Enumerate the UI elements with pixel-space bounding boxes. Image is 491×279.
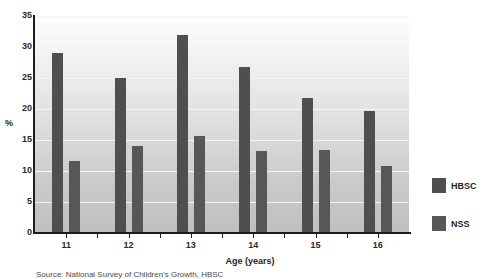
legend-label-nss: NSS	[451, 219, 470, 229]
x-axis-tick-label: 13	[171, 240, 211, 250]
bar-chart-figure: % 05101520253035 Age (years) HBSCNSS Sou…	[0, 0, 491, 279]
legend-label-hbsc: HBSC	[451, 181, 477, 191]
gridline	[35, 140, 409, 141]
bar-hbsc-13	[177, 35, 188, 233]
bar-nss-13	[194, 136, 205, 233]
bar-nss-12	[132, 146, 143, 233]
x-axis-tick-label: 15	[296, 240, 336, 250]
x-axis-tick	[316, 233, 317, 238]
x-axis-minor-tick	[222, 233, 223, 238]
x-axis-tick	[129, 233, 130, 238]
bar-nss-15	[319, 150, 330, 233]
bar-nss-11	[69, 161, 80, 233]
source-caption: Source: National Survey of Children's Gr…	[36, 270, 466, 279]
x-axis-tick	[66, 233, 67, 238]
gridline	[35, 109, 409, 110]
y-axis-tick-label: 5	[10, 197, 32, 206]
bar-nss-16	[381, 166, 392, 233]
gridline	[35, 47, 409, 48]
plot-area	[35, 16, 409, 233]
y-axis-tick-label: 25	[10, 73, 32, 82]
x-axis-tick	[378, 233, 379, 238]
gridline	[35, 202, 409, 203]
bar-hbsc-12	[115, 78, 126, 233]
y-axis-tick-label: 0	[10, 228, 32, 237]
x-axis-tick-label: 12	[109, 240, 149, 250]
bar-hbsc-14	[239, 67, 250, 233]
x-axis-tick-label: 11	[46, 240, 86, 250]
bar-hbsc-16	[364, 111, 375, 233]
x-axis-minor-tick	[284, 233, 285, 238]
x-axis-tick	[191, 233, 192, 238]
gridline	[35, 16, 409, 17]
y-axis-tick-label: 15	[10, 135, 32, 144]
x-axis-minor-tick	[160, 233, 161, 238]
legend-swatch-nss	[432, 216, 446, 231]
gridline	[35, 171, 409, 172]
bar-hbsc-15	[302, 98, 313, 233]
x-axis-tick	[253, 233, 254, 238]
gridline	[35, 78, 409, 79]
y-axis-tick-label: 10	[10, 166, 32, 175]
x-axis-minor-tick	[97, 233, 98, 238]
legend-swatch-hbsc	[432, 178, 446, 193]
bar-hbsc-11	[52, 53, 63, 233]
bar-nss-14	[256, 151, 267, 233]
x-axis-title: Age (years)	[190, 256, 310, 266]
y-axis-tick-label: 35	[10, 11, 32, 20]
y-axis-tick-label: 20	[10, 104, 32, 113]
y-axis-tick-label: 30	[10, 42, 32, 51]
y-axis-line	[33, 15, 35, 234]
y-axis-tick-labels: 05101520253035	[10, 11, 32, 237]
x-axis-tick-label: 14	[233, 240, 273, 250]
x-axis-minor-tick	[347, 233, 348, 238]
x-axis-tick-label: 16	[358, 240, 398, 250]
